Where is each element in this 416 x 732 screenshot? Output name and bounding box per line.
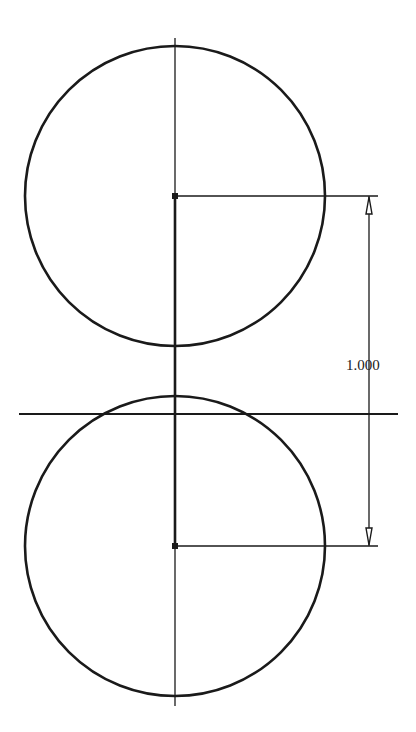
dimension-label: 1.000 [346, 358, 380, 373]
